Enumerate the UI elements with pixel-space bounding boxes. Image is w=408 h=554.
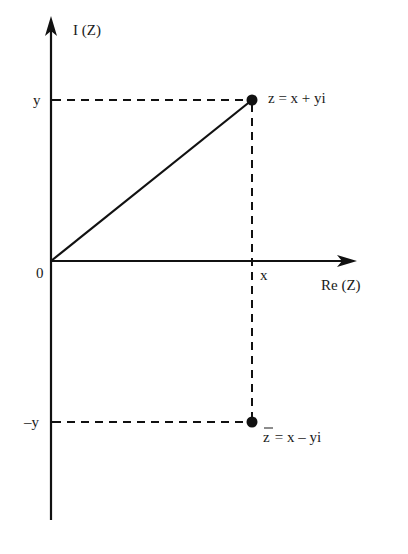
point-z: [247, 95, 258, 106]
imaginary-axis-label: I (Z): [73, 22, 101, 39]
real-axis-label: Re (Z): [321, 277, 361, 294]
tick-label-x: x: [260, 267, 268, 283]
point-z-label: z = x + yi: [268, 90, 326, 106]
argand-diagram: I (Z) Re (Z) 0 y –y x z = x + yi z = x –…: [0, 0, 408, 554]
vector-z: [51, 100, 252, 261]
tick-label-y: y: [33, 92, 41, 108]
diagram-svg: I (Z) Re (Z) 0 y –y x z = x + yi z = x –…: [0, 0, 408, 554]
conjugate-z-letter: z: [263, 429, 270, 445]
real-axis: [51, 255, 357, 267]
tick-label-neg-y: –y: [23, 414, 40, 430]
point-z-conjugate: [247, 417, 258, 428]
point-z-conjugate-label: z = x – yi: [263, 428, 321, 445]
origin-label: 0: [36, 265, 44, 281]
imaginary-axis: [45, 16, 57, 520]
conjugate-rest-label: = x – yi: [271, 429, 321, 445]
